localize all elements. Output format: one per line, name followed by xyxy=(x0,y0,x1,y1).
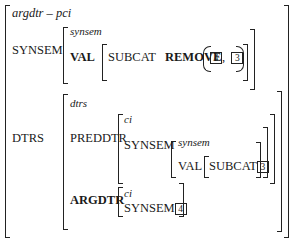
preddtr-synsem-type-label: synsem xyxy=(178,137,210,148)
dtrs-left-bracket xyxy=(63,94,68,230)
preddtr-synsem-label: SYNSEM xyxy=(124,139,175,152)
argdtr-feature-label: ARGDTR xyxy=(70,194,124,207)
argdtr-synsem-feature: SYNSEM xyxy=(124,201,175,215)
synsem-type-label: synsem xyxy=(70,26,102,37)
dtrs-right-bracket xyxy=(277,91,282,232)
preddtr-val-label: VAL xyxy=(178,160,202,173)
argdtr-synsem-label: SYNSEM4 xyxy=(124,202,187,215)
preddtr-left-bracket xyxy=(118,114,123,184)
remove-right-paren xyxy=(236,46,244,72)
val-feature-label: VAL xyxy=(70,51,95,64)
synsem-right-bracket xyxy=(250,29,255,90)
outer-type-label: argdtr – pci xyxy=(12,7,71,20)
preddtr-synsem-left-bracket xyxy=(171,141,176,178)
argdtr-left-bracket xyxy=(118,187,123,217)
outer-left-bracket xyxy=(5,5,10,238)
dtrs-feature-label: DTRS xyxy=(12,132,44,145)
tag-box-4: 4 xyxy=(175,203,187,215)
tag-box-3: 3 xyxy=(257,161,269,173)
preddtr-subcat-feature: SUBCAT xyxy=(209,159,257,173)
outer-right-bracket xyxy=(284,5,289,238)
synsem-left-bracket xyxy=(63,27,68,84)
subcat-feature-label: SUBCAT xyxy=(108,51,156,64)
synsem-feature-label: SYNSEM xyxy=(12,44,63,57)
preddtr-subcat-label: SUBCAT3 xyxy=(209,160,269,173)
arg-separator: , xyxy=(222,50,225,64)
tag-box-4: 4 xyxy=(210,52,222,64)
dtrs-type-label: dtrs xyxy=(70,98,87,109)
preddtr-type-label: ci xyxy=(124,114,132,125)
val-left-bracket xyxy=(102,44,107,81)
argdtr-type-label: ci xyxy=(124,188,132,199)
preddtr-right-bracket xyxy=(270,114,275,184)
